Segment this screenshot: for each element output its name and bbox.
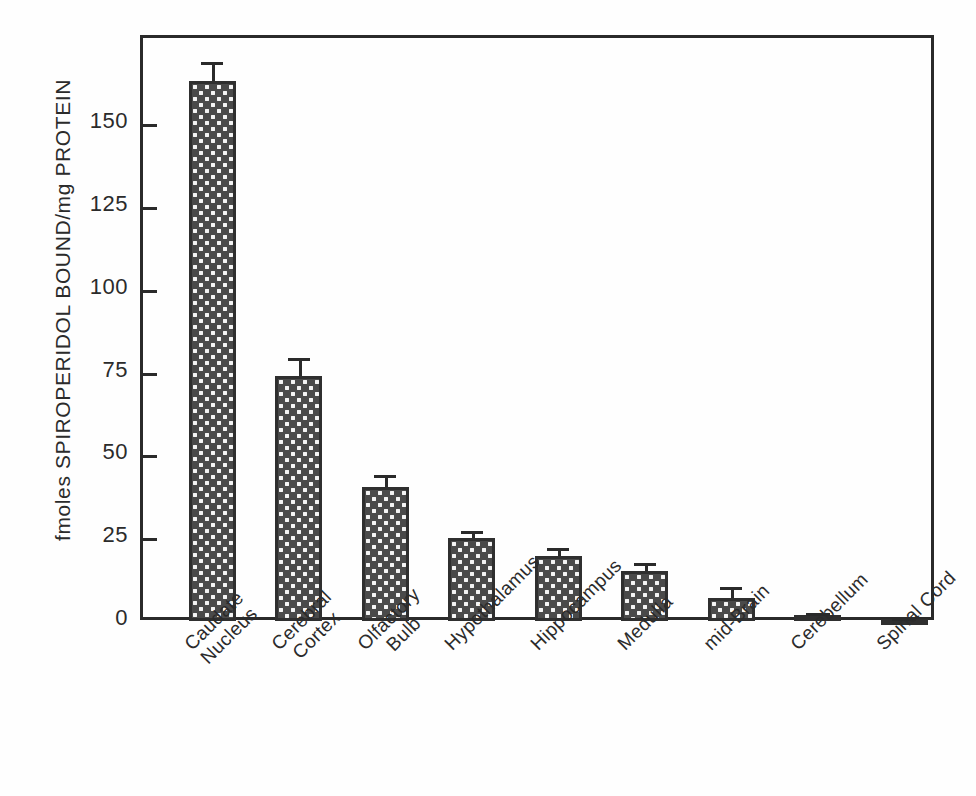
y-tick-label: 25	[8, 522, 128, 548]
y-tick-label: 0	[8, 605, 128, 631]
y-tick-label: 150	[8, 108, 128, 134]
error-bar-cap	[634, 563, 656, 566]
plot-area	[140, 35, 934, 620]
error-bar-cap	[547, 548, 569, 551]
error-bar-cap	[720, 587, 742, 590]
y-tick-label: 125	[8, 191, 128, 217]
y-axis-tick	[143, 207, 157, 210]
y-axis-tick	[143, 290, 157, 293]
y-tick-label: 50	[8, 439, 128, 465]
bar	[275, 376, 322, 621]
y-axis-title: fmoles SPIROPERIDOL BOUND/mg PROTEIN	[42, 0, 84, 660]
error-bar-cap	[288, 358, 310, 361]
y-axis-tick	[143, 455, 157, 458]
error-bar-cap	[201, 62, 223, 65]
y-axis-tick	[143, 124, 157, 127]
y-axis-tick	[143, 373, 157, 376]
y-tick-label: 75	[8, 357, 128, 383]
y-axis-tick	[143, 538, 157, 541]
error-bar-cap	[461, 531, 483, 534]
bar	[189, 81, 236, 621]
chart-page: fmoles SPIROPERIDOL BOUND/mg PROTEIN 025…	[0, 0, 976, 796]
error-bar-cap	[374, 475, 396, 478]
y-tick-label: 100	[8, 274, 128, 300]
